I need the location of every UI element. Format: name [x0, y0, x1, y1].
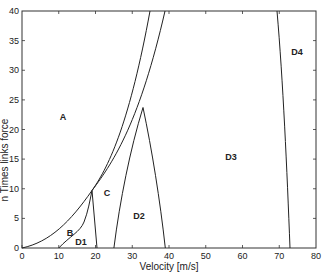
- y-ticks: [22, 41, 316, 219]
- x-tick-label: 0: [19, 251, 24, 261]
- x-tick-labels: 0 10 20 30 40 50 60 70 80: [19, 251, 321, 261]
- y-tick-label: 5: [14, 213, 19, 223]
- region-label-d1: D1: [75, 237, 87, 247]
- y-tick-label: 0: [14, 243, 19, 253]
- region-label-a: A: [60, 112, 67, 122]
- y-tick-label: 15: [9, 154, 19, 164]
- x-tick-label: 70: [274, 251, 284, 261]
- x-tick-label: 60: [237, 251, 247, 261]
- region-label-d3: D3: [225, 152, 237, 162]
- curve-d1-right: [92, 191, 97, 249]
- chart-container: 0 10 20 30 40 50 60 70 80 0 5 10 15 20 2…: [0, 0, 324, 274]
- y-tick-labels: 0 5 10 15 20 25 30 35 40: [9, 6, 19, 253]
- y-tick-label: 10: [9, 184, 19, 194]
- boundary-curves: [22, 11, 290, 248]
- y-tick-label: 40: [9, 6, 19, 16]
- y-tick-label: 25: [9, 95, 19, 105]
- x-tick-label: 80: [311, 251, 321, 261]
- x-ticks: [22, 11, 279, 248]
- region-label-d2: D2: [133, 211, 145, 221]
- curve-a-boundary: [22, 11, 150, 248]
- region-label-c: C: [104, 188, 111, 198]
- y-axis-label: n Times links force: [0, 118, 10, 201]
- y-tick-label: 35: [9, 36, 19, 46]
- x-tick-label: 20: [90, 251, 100, 261]
- x-tick-label: 30: [127, 251, 137, 261]
- plot-frame: [22, 11, 316, 248]
- region-labels: A B C D1 D2 D3 D4: [60, 47, 303, 247]
- x-tick-label: 50: [201, 251, 211, 261]
- region-label-d4: D4: [291, 47, 303, 57]
- region-label-b: B: [67, 228, 74, 238]
- x-tick-label: 10: [54, 251, 64, 261]
- curve-d4: [277, 11, 290, 248]
- y-tick-label: 20: [9, 125, 19, 135]
- curve-d2-right: [143, 108, 165, 249]
- x-tick-label: 40: [164, 251, 174, 261]
- x-axis-label: Velocity [m/s]: [140, 261, 199, 272]
- y-tick-label: 30: [9, 65, 19, 75]
- chart-svg: 0 10 20 30 40 50 60 70 80 0 5 10 15 20 2…: [0, 0, 324, 274]
